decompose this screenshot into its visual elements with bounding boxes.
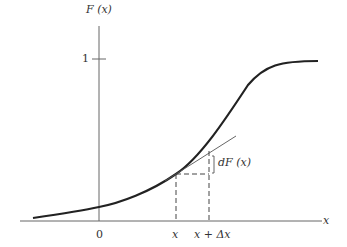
diagram-canvas bbox=[0, 0, 347, 247]
point-x-label: x bbox=[172, 228, 178, 241]
y-axis-label: F (x) bbox=[86, 3, 112, 16]
cdf-diagram: F (x) 1 0 x x + Δx dF (x) x bbox=[0, 0, 347, 247]
x-axis-label: x bbox=[323, 214, 329, 227]
point-xdx-label: x + Δx bbox=[194, 228, 231, 241]
y-tick-one-label: 1 bbox=[82, 52, 89, 65]
increment-label: dF (x) bbox=[218, 156, 251, 169]
origin-label: 0 bbox=[96, 228, 103, 241]
increment-bracket bbox=[212, 156, 214, 173]
